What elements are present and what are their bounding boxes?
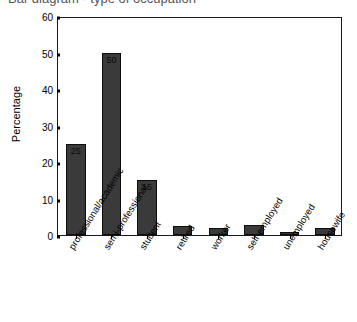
y-tick-label: 30 [42, 123, 58, 133]
y-tick-mark [57, 236, 60, 239]
bar-value-label: 25 [67, 147, 85, 156]
y-axis-title: Percentage [10, 64, 22, 164]
bar: 50 [102, 53, 122, 236]
y-tick-label: 20 [42, 159, 58, 169]
chart-title-text: Bar diagram - type of occupation [8, 0, 196, 6]
bar-value-label: 50 [103, 56, 121, 65]
y-tick-label: 50 [42, 50, 58, 60]
y-tick-label: 60 [42, 13, 58, 23]
y-tick-label: 40 [42, 86, 58, 96]
x-axis-labels: professional/academicsemi-professionalst… [57, 240, 342, 320]
chart-title-clipped: Bar diagram - type of occupation [0, 0, 357, 6]
y-tick-label: 10 [42, 196, 58, 206]
